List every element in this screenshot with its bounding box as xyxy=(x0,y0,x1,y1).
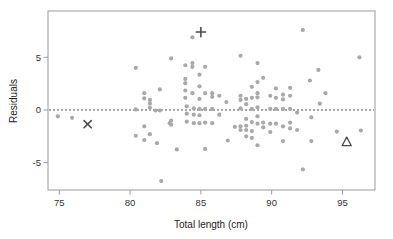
data-point xyxy=(301,28,305,32)
data-point xyxy=(183,63,187,67)
data-point xyxy=(250,96,254,100)
data-point xyxy=(210,91,214,95)
data-point xyxy=(185,112,189,116)
residual-scatter-plot: 7580859095 -505 Total length (cm) Residu… xyxy=(0,0,393,239)
data-point xyxy=(323,91,327,95)
data-point xyxy=(70,116,74,120)
data-point xyxy=(335,129,339,133)
data-point xyxy=(197,107,201,111)
data-point xyxy=(357,55,361,59)
data-point xyxy=(250,129,254,133)
data-point xyxy=(261,121,265,125)
data-point xyxy=(238,94,242,98)
data-point xyxy=(250,120,254,124)
data-point xyxy=(190,91,194,95)
data-point xyxy=(197,73,201,77)
data-point xyxy=(295,128,299,132)
data-point xyxy=(159,179,163,183)
data-point xyxy=(197,121,201,125)
data-point xyxy=(197,97,201,101)
data-point xyxy=(281,107,285,111)
x-tick-label: 75 xyxy=(54,197,65,208)
data-point xyxy=(217,113,221,117)
x-tick-label: 90 xyxy=(266,197,277,208)
y-tick-label: 0 xyxy=(36,104,41,115)
data-point xyxy=(288,86,292,90)
x-tick-label: 85 xyxy=(196,197,207,208)
x-tick-label: 80 xyxy=(125,197,136,208)
data-point xyxy=(203,107,207,111)
data-point xyxy=(134,66,138,70)
data-point xyxy=(238,128,242,132)
data-point xyxy=(274,96,278,100)
data-point xyxy=(210,107,214,111)
data-point xyxy=(210,95,214,99)
data-point xyxy=(192,106,196,110)
data-point xyxy=(295,111,299,115)
data-point xyxy=(175,147,179,151)
data-point xyxy=(153,108,157,112)
data-point xyxy=(268,122,272,126)
data-point xyxy=(142,124,146,128)
data-point xyxy=(238,124,242,128)
data-point xyxy=(255,114,259,118)
data-point xyxy=(148,102,152,106)
data-point xyxy=(190,65,194,69)
x-axis-title: Total length (cm) xyxy=(174,219,248,230)
data-point xyxy=(238,106,242,110)
data-point xyxy=(190,61,194,65)
data-point xyxy=(190,35,194,39)
data-point xyxy=(309,139,313,143)
data-point xyxy=(244,128,248,132)
data-point xyxy=(250,136,254,140)
data-point xyxy=(309,115,313,119)
data-point xyxy=(255,95,259,99)
data-point xyxy=(203,147,207,151)
data-point xyxy=(183,96,187,100)
data-point xyxy=(197,113,201,117)
data-point xyxy=(169,123,173,127)
data-point xyxy=(281,124,285,128)
y-tick-label: 5 xyxy=(36,52,41,63)
data-point xyxy=(288,107,292,111)
data-point xyxy=(244,134,248,138)
data-point xyxy=(183,81,187,85)
data-point xyxy=(255,143,259,147)
data-point xyxy=(274,122,278,126)
data-point xyxy=(255,122,259,126)
data-point xyxy=(359,128,363,132)
data-point xyxy=(148,132,152,136)
data-point xyxy=(244,117,248,121)
data-point xyxy=(142,96,146,100)
data-point xyxy=(244,97,248,101)
data-point xyxy=(274,86,278,90)
data-point xyxy=(250,85,254,89)
data-point xyxy=(169,118,173,122)
data-point xyxy=(210,121,214,125)
data-point xyxy=(148,106,152,110)
data-point xyxy=(155,141,159,145)
data-point xyxy=(224,100,228,104)
data-point xyxy=(183,77,187,81)
data-point xyxy=(288,126,292,130)
y-axis-title: Residuals xyxy=(8,79,19,123)
data-point xyxy=(255,80,259,84)
data-point xyxy=(148,98,152,102)
data-point xyxy=(268,107,272,111)
data-point xyxy=(134,107,138,111)
data-point xyxy=(158,87,162,91)
data-point xyxy=(255,91,259,95)
data-point xyxy=(244,102,248,106)
data-point xyxy=(192,121,196,125)
data-point xyxy=(255,61,259,65)
data-point xyxy=(169,56,173,60)
chart-canvas: 7580859095 -505 Total length (cm) Residu… xyxy=(0,0,393,239)
data-point xyxy=(142,91,146,95)
data-point xyxy=(250,107,254,111)
data-point xyxy=(134,134,138,138)
data-point xyxy=(281,93,285,97)
data-point xyxy=(217,94,221,98)
data-point xyxy=(238,54,242,58)
data-point xyxy=(185,119,189,123)
data-point xyxy=(197,84,201,88)
